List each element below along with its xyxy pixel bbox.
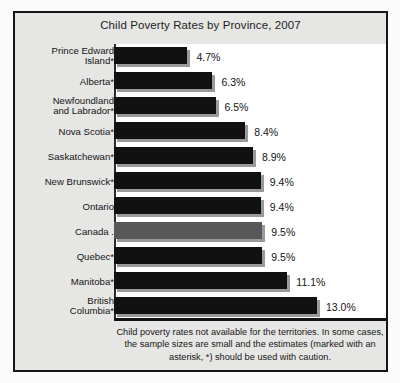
value-axis-line	[114, 318, 386, 321]
category-label: Saskatchewan*	[22, 151, 114, 162]
bar-value-label: 9.4%	[270, 176, 294, 188]
bar[interactable]	[114, 147, 253, 164]
bar[interactable]	[114, 97, 216, 114]
bar-track: 6.3%	[114, 69, 386, 94]
category-label: Manitoba*	[22, 276, 114, 287]
bar[interactable]	[114, 47, 187, 64]
bar-row: Canada .9.5%	[17, 219, 386, 244]
bar-track: 13.0%	[114, 294, 386, 319]
category-label: Canada .	[22, 226, 114, 237]
bar[interactable]	[114, 247, 262, 264]
bar-row: New Brunswick*9.4%	[17, 169, 386, 194]
bar-track: 4.7%	[114, 44, 386, 69]
bar-value-label: 8.4%	[254, 126, 278, 138]
bar-value-label: 9.4%	[270, 201, 294, 213]
bar-row: Newfoundland and Labrador*6.5%	[17, 94, 386, 119]
chart-footnote: Child poverty rates not available for th…	[114, 326, 386, 363]
bar-value-label: 6.5%	[225, 101, 249, 113]
bar-row: Alberta*6.3%	[17, 69, 386, 94]
category-label: Alberta*	[22, 76, 114, 87]
bar-track: 8.4%	[114, 119, 386, 144]
bar-value-label: 13.0%	[326, 301, 356, 313]
bar-row: Manitoba*11.1%	[17, 269, 386, 294]
bar[interactable]	[114, 222, 262, 239]
bar[interactable]	[114, 172, 261, 189]
category-label: Nova Scotia*	[22, 126, 114, 137]
bar[interactable]	[114, 122, 245, 139]
bar-value-label: 9.5%	[271, 251, 295, 263]
category-label: Ontario	[22, 201, 114, 212]
bar-row: Ontario9.4%	[17, 194, 386, 219]
bar-value-label: 6.3%	[221, 76, 245, 88]
page-background: Child Poverty Rates by Province, 2007 Pr…	[0, 0, 400, 383]
bar[interactable]	[114, 297, 317, 314]
bar-row: Saskatchewan*8.9%	[17, 144, 386, 169]
bar-track: 6.5%	[114, 94, 386, 119]
bar-row: Nova Scotia*8.4%	[17, 119, 386, 144]
bar-track: 9.4%	[114, 169, 386, 194]
chart-title: Child Poverty Rates by Province, 2007	[15, 19, 386, 31]
bar-value-label: 4.7%	[196, 51, 220, 63]
chart-frame: Child Poverty Rates by Province, 2007 Pr…	[13, 11, 388, 372]
bar-track: 11.1%	[114, 269, 386, 294]
category-label: Prince Edward Island*	[22, 46, 114, 67]
bar-track: 8.9%	[114, 144, 386, 169]
bar-track: 9.5%	[114, 219, 386, 244]
bar-value-label: 11.1%	[296, 276, 325, 288]
category-label: British Columbia*	[22, 296, 114, 317]
bar-track: 9.4%	[114, 194, 386, 219]
bar-rows: Prince Edward Island*4.7%Alberta*6.3%New…	[17, 44, 386, 319]
category-label: Quebec*	[22, 251, 114, 262]
bar[interactable]	[114, 72, 212, 89]
bar-value-label: 9.5%	[271, 226, 295, 238]
bar-track: 9.5%	[114, 244, 386, 269]
bar-value-label: 8.9%	[262, 151, 286, 163]
bar-row: Prince Edward Island*4.7%	[17, 44, 386, 69]
category-label: New Brunswick*	[22, 176, 114, 187]
bar[interactable]	[114, 197, 261, 214]
bar-row: Quebec*9.5%	[17, 244, 386, 269]
bar-row: British Columbia*13.0%	[17, 294, 386, 319]
category-label: Newfoundland and Labrador*	[22, 96, 114, 117]
bar[interactable]	[114, 272, 287, 289]
